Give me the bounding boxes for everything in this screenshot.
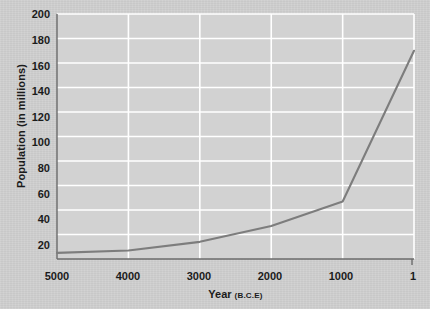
- plot-area: [0, 0, 430, 309]
- chart-figure: Population (in millions) Year (B.C.E) 20…: [0, 0, 430, 309]
